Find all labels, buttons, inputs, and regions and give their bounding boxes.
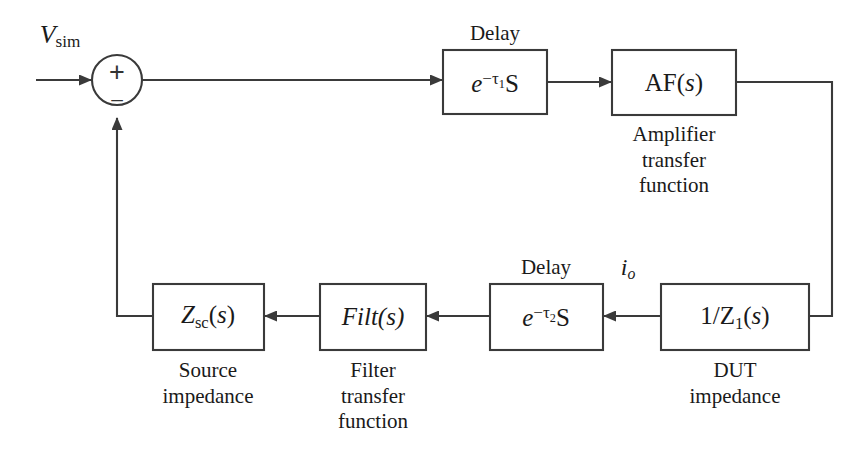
caption-source: Source impedance (163, 358, 254, 409)
filt-label: Filt (342, 303, 378, 330)
block-filter-text: Filt(s) (342, 304, 405, 331)
delay1-minus: − (482, 69, 492, 88)
delay1-tau: τ (492, 69, 499, 88)
block-dut-text: 1/Z1(s) (700, 303, 769, 332)
caption-dut: DUT impedance (690, 358, 781, 409)
block-amplifier-text: AF(s) (645, 70, 703, 97)
caption-filter-line3: function (338, 409, 408, 435)
delay2-capital-s: S (556, 304, 570, 331)
wire-source-to-sum (117, 118, 153, 316)
zsc-arg: s (217, 301, 227, 328)
delay2-minus: − (533, 303, 543, 322)
caption-amplifier-line2: transfer (633, 148, 716, 174)
zsc-base: Z (181, 301, 195, 328)
dut-one-over-z: 1/Z (700, 302, 735, 329)
delay1-capital-s: S (505, 70, 519, 97)
signal-label-vsim: Vsim (40, 21, 81, 52)
caption-amplifier: Amplifier transfer function (633, 122, 716, 199)
caption-filter-line2: transfer (338, 384, 408, 410)
dut-z-index: 1 (735, 314, 743, 333)
delay2-e: e (522, 304, 533, 331)
block-delay2-text: e−τ2S (522, 304, 570, 331)
delay1-exponent: −τ1 (482, 69, 505, 88)
af-close: ) (695, 69, 703, 96)
zsc-close: ) (227, 301, 235, 328)
caption-amplifier-line1: Amplifier (633, 122, 716, 148)
zsc-subscript: sc (195, 313, 209, 332)
summing-plus-sign: + (109, 57, 125, 88)
zsc-open: ( (209, 301, 217, 328)
filt-arg: s (386, 303, 396, 330)
caption-source-line2: impedance (163, 384, 254, 410)
summing-minus-sign: – (111, 87, 123, 111)
caption-dut-line1: DUT (690, 358, 781, 384)
af-arg: s (685, 69, 695, 96)
delay2-tau: τ (543, 303, 550, 322)
delay1-e: e (471, 70, 482, 97)
vsim-base: V (40, 20, 56, 49)
af-label: AF( (645, 69, 685, 96)
block-source-text: Zsc(s) (181, 302, 235, 331)
vsim-subscript: sim (56, 32, 81, 51)
filt-close: ) (396, 303, 404, 330)
block-delay1-text: e−τ1S (471, 70, 519, 97)
label-delay2-above: Delay (521, 256, 571, 278)
signal-label-io: io (621, 255, 636, 283)
dut-arg: s (752, 302, 762, 329)
wire-amp-to-dut (736, 82, 832, 316)
io-base: i (621, 254, 628, 280)
caption-source-line1: Source (163, 358, 254, 384)
caption-dut-line2: impedance (690, 384, 781, 410)
caption-filter-line1: Filter (338, 358, 408, 384)
delay2-exponent: −τ2 (533, 303, 556, 322)
caption-filter: Filter transfer function (338, 358, 408, 435)
block-diagram: Vsim + – Delay e−τ1S AF(s) Amplifier tra… (0, 0, 859, 458)
io-subscript: o (627, 265, 635, 282)
caption-amplifier-line3: function (633, 173, 716, 199)
label-delay1-above: Delay (470, 22, 520, 44)
dut-close: ) (761, 302, 769, 329)
